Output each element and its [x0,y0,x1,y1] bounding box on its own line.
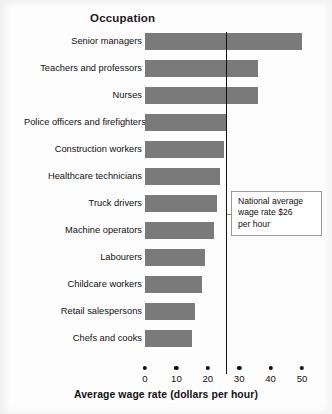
x-axis-tick-label: 0 [142,373,147,384]
x-axis-tick-label: 30 [234,373,245,384]
bar [145,168,220,185]
x-axis-tick-label: 20 [202,373,213,384]
category-label-wrapper: Nurses [16,86,142,105]
x-axis-tick-label: 40 [265,373,276,384]
chart-row: Police officers and firefighters [0,113,332,140]
bar [145,195,217,212]
x-axis-tick-label: 50 [297,373,308,384]
category-label: Truck drivers [24,194,142,213]
category-label-wrapper: Labourers [16,248,142,267]
category-label-wrapper: Machine operators [16,221,142,240]
category-label: Healthcare technicians [24,167,142,186]
category-label-wrapper: Police officers and firefighters [16,113,142,132]
category-label: Childcare workers [24,275,142,294]
category-label: Police officers and firefighters [24,113,142,132]
chart-row: Labourers [0,248,332,275]
chart-row: Retail salespersons [0,302,332,329]
category-label-wrapper: Construction workers [16,140,142,159]
chart-row: Healthcare technicians [0,167,332,194]
national-average-reference-line [226,32,227,374]
bar [145,60,258,77]
chart-row: Senior managers [0,32,332,59]
bar [145,330,192,347]
callout-line-3: per hour [238,219,316,230]
national-average-callout: National average wage rate $26 per hour [231,191,322,236]
category-label: Retail salespersons [24,302,142,321]
bar [145,87,258,104]
chart-row: Chefs and cooks [0,329,332,356]
chart-row: Teachers and professors [0,59,332,86]
category-label-wrapper: Retail salespersons [16,302,142,321]
category-label-wrapper: Senior managers [16,32,142,51]
category-label-wrapper: Truck drivers [16,194,142,213]
category-label: Labourers [24,248,142,267]
category-label-wrapper: Childcare workers [16,275,142,294]
bar [145,141,224,158]
category-label: Chefs and cooks [24,329,142,348]
category-label: Senior managers [24,32,142,51]
x-axis-title: Average wage rate (dollars per hour) [0,389,332,400]
bar [145,33,302,50]
chart-row: Childcare workers [0,275,332,302]
bar [145,114,227,131]
category-label: Construction workers [24,140,142,159]
callout-line-1: National average [238,196,316,207]
bar [145,303,195,320]
bar [145,222,214,239]
bar [145,249,205,266]
category-label-wrapper: Healthcare technicians [16,167,142,186]
category-label: Nurses [24,86,142,105]
category-label: Teachers and professors [24,59,142,78]
chart-row: Nurses [0,86,332,113]
bar [145,276,202,293]
category-label-wrapper: Teachers and professors [16,59,142,78]
wage-rate-bar-chart: Occupation Senior managersTeachers and p… [0,0,332,414]
x-axis-tick-label: 10 [171,373,182,384]
chart-row: Construction workers [0,140,332,167]
callout-line-2: wage rate $26 [238,207,316,218]
category-label: Machine operators [24,221,142,240]
category-label-wrapper: Chefs and cooks [16,329,142,348]
